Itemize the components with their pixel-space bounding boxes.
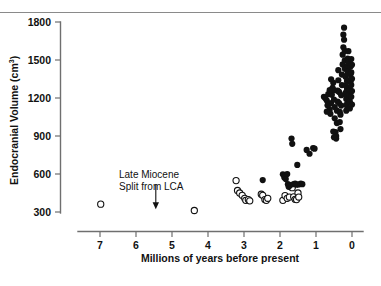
annotation-line-2: Split from LCA xyxy=(119,181,184,192)
data-point xyxy=(348,82,354,88)
annotation-line-1: Late Miocene xyxy=(119,169,179,180)
data-point xyxy=(311,146,317,152)
data-point xyxy=(337,119,343,125)
data-point xyxy=(284,171,290,177)
x-tick-label: 0 xyxy=(349,239,355,251)
data-point xyxy=(331,134,337,140)
data-point xyxy=(327,87,333,93)
y-axis-title-text: Endocranial Volume (cm xyxy=(8,63,20,185)
y-axis-title: Endocranial Volume (cm3) xyxy=(8,56,20,185)
data-point xyxy=(98,201,104,207)
data-point xyxy=(330,128,336,134)
y-tick-label: 1800 xyxy=(28,16,52,28)
x-tick-label: 3 xyxy=(241,239,247,251)
data-point xyxy=(299,181,305,187)
x-axis-title: Millions of years before present xyxy=(141,252,300,264)
filled-circle-data-points xyxy=(260,25,355,190)
data-point xyxy=(348,69,354,75)
data-point xyxy=(341,37,347,43)
x-tick-label: 7 xyxy=(97,239,103,251)
data-point xyxy=(289,141,295,147)
data-point xyxy=(349,101,355,107)
data-point xyxy=(233,177,239,183)
y-tick-label: 900 xyxy=(33,130,51,142)
data-point xyxy=(265,195,271,201)
data-point xyxy=(306,151,312,157)
y-tick-label: 1500 xyxy=(28,54,52,66)
y-tick-label: 300 xyxy=(33,206,51,218)
x-tick-label: 4 xyxy=(205,239,211,251)
arrow-head xyxy=(153,202,159,209)
data-point xyxy=(328,76,334,82)
data-point xyxy=(247,198,253,204)
y-axis-tick-labels: 300600900120015001800 xyxy=(28,16,52,218)
data-point xyxy=(349,62,355,68)
late-miocene-annotation: Late Miocene Split from LCA xyxy=(119,169,184,209)
x-axis-tick-labels: 76543210 xyxy=(97,239,355,251)
data-point xyxy=(348,94,354,100)
x-tick-label: 5 xyxy=(169,239,175,251)
x-tick-label: 6 xyxy=(133,239,139,251)
data-point xyxy=(341,25,347,31)
data-point xyxy=(348,56,354,62)
x-axis-ticks xyxy=(100,232,352,238)
x-tick-label: 1 xyxy=(313,239,319,251)
data-point xyxy=(337,112,343,118)
data-point xyxy=(260,177,266,183)
svg-text:Endocranial Volume (cm3): Endocranial Volume (cm3) xyxy=(8,56,20,185)
y-axis-group: 300600900120015001800 xyxy=(28,16,61,218)
y-tick-label: 1200 xyxy=(28,92,52,104)
data-point xyxy=(345,48,351,54)
data-point xyxy=(296,194,302,200)
y-axis-ticks xyxy=(55,22,61,212)
data-point xyxy=(324,109,330,115)
data-point xyxy=(288,135,294,141)
data-point xyxy=(191,207,197,213)
data-point xyxy=(294,162,300,168)
x-axis-group: 76543210 xyxy=(78,232,363,252)
scatter-plot: 300600900120015001800 76543210 Endocrani… xyxy=(0,0,381,286)
x-tick-label: 2 xyxy=(277,239,283,251)
y-tick-label: 600 xyxy=(33,168,51,180)
figure-container: 300600900120015001800 76543210 Endocrani… xyxy=(0,0,381,286)
data-point xyxy=(324,102,330,108)
data-point xyxy=(349,88,355,94)
y-axis-title-suffix: ) xyxy=(8,56,20,60)
data-point xyxy=(349,76,355,82)
data-point xyxy=(337,126,343,132)
